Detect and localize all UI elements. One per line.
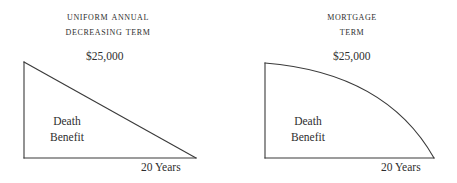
x-axis-label-right: 20 Years — [381, 160, 421, 174]
area-label-right-line1: Death — [291, 114, 325, 130]
panel-uniform-annual-decreasing-term: Uniform Annual Decreasing Term $25,000 D… — [0, 0, 228, 183]
x-axis-label-left: 20 Years — [141, 160, 181, 174]
area-label-left: Death Benefit — [50, 114, 84, 145]
curve-diagram — [229, 0, 457, 183]
panel-mortgage-term: Mortgage Term $25,000 Death Benefit 20 Y… — [229, 0, 457, 183]
area-label-right-line2: Benefit — [291, 130, 325, 146]
figure-canvas: Uniform Annual Decreasing Term $25,000 D… — [0, 0, 457, 183]
area-label-right: Death Benefit — [291, 114, 325, 145]
triangle-diagram — [0, 0, 228, 183]
area-label-left-line2: Benefit — [50, 130, 84, 146]
area-label-left-line1: Death — [50, 114, 84, 130]
